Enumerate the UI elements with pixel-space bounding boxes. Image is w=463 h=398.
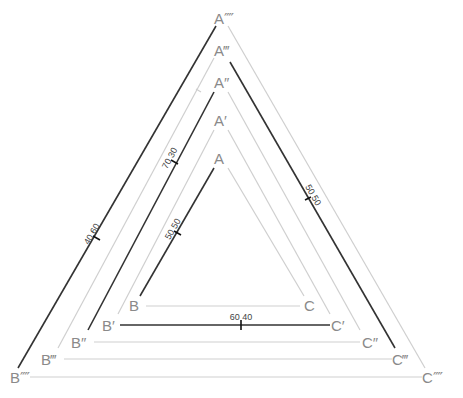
- side-ac: [228, 168, 304, 296]
- vertex-labels: A A′ A″ A‴ A⁗ B B′ B″ B‴ B⁗ C C′ C″ C‴ C…: [10, 10, 443, 386]
- ratio-label-a2b2: 70 30: [160, 146, 179, 171]
- vertex-label-b: B: [129, 297, 139, 314]
- ratio-label-ab: 50 50: [163, 217, 183, 242]
- vertex-label-b1: B′: [102, 317, 115, 334]
- ratio-label-a4b4: 40 60: [82, 222, 102, 247]
- vertex-label-a3: A‴: [214, 42, 230, 59]
- vertex-label-b2: B″: [71, 334, 87, 351]
- side-a1c1: [228, 130, 330, 314]
- triangle-a3b3c3: 50 50: [58, 58, 395, 359]
- side-a4b4: [18, 26, 216, 368]
- side-a2b2: [88, 92, 214, 330]
- nested-triangles-diagram: 50 50 60 40 70 30 50 50 40 60 A A′ A″: [0, 0, 463, 398]
- vertex-label-c2: C″: [362, 334, 379, 351]
- vertex-label-a1: A′: [214, 112, 227, 129]
- vertex-label-a2: A″: [214, 74, 230, 91]
- vertex-label-c4: C⁗: [422, 369, 443, 386]
- vertex-label-a4: A⁗: [214, 10, 234, 27]
- vertex-label-a: A: [214, 150, 224, 167]
- vertex-label-c3: C‴: [392, 351, 409, 368]
- side-a4c4: [228, 26, 425, 368]
- vertex-label-b4: B⁗: [10, 369, 30, 386]
- ratio-label-b1c1: 60 40: [230, 312, 253, 322]
- vertex-label-b3: B‴: [41, 351, 57, 368]
- triangle-abc: 50 50: [140, 168, 304, 306]
- side-a2c2: [228, 92, 360, 330]
- vertex-label-c: C: [304, 297, 315, 314]
- vertex-label-c1: C′: [331, 317, 345, 334]
